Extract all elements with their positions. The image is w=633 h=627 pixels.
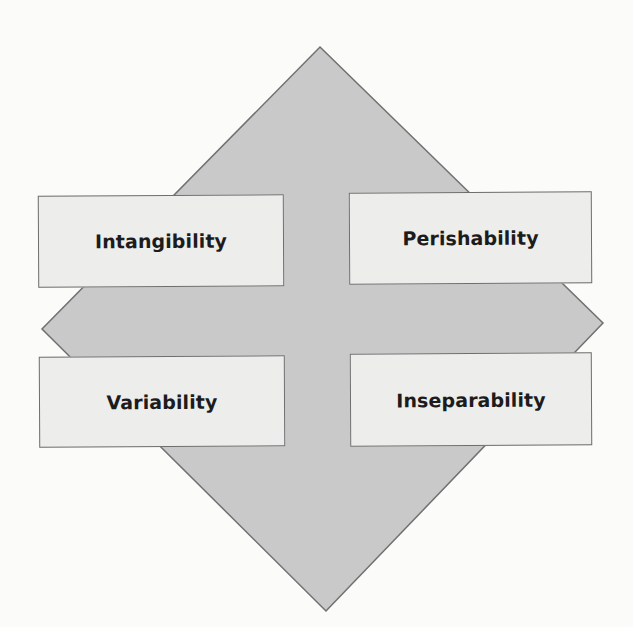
- diamond-shape: [0, 0, 633, 627]
- box-label-inseparability: Inseparability: [396, 388, 546, 411]
- box-perishability: Perishability: [349, 191, 592, 284]
- box-intangibility: Intangibility: [38, 194, 284, 287]
- box-label-perishability: Perishability: [402, 227, 538, 250]
- box-inseparability: Inseparability: [350, 352, 592, 446]
- diamond-polygon: [42, 47, 603, 611]
- box-label-intangibility: Intangibility: [95, 230, 227, 253]
- box-variability: Variability: [39, 355, 285, 447]
- service-characteristics-diagram: Intangibility Perishability Variability …: [0, 0, 633, 627]
- box-label-variability: Variability: [106, 390, 217, 413]
